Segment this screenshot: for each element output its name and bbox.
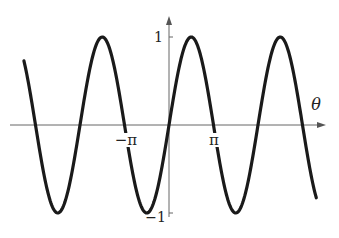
- sine-plot: −π π 1 −1 θ: [0, 0, 339, 238]
- x-tick-label-neg-pi: −π: [115, 131, 138, 149]
- x-axis-label-theta: θ: [311, 95, 321, 114]
- x-tick-label-pi: π: [209, 131, 219, 149]
- x-axis-arrow-icon: [317, 122, 326, 128]
- y-tick-label-neg1: −1: [145, 209, 166, 225]
- y-axis-arrow-icon: [166, 16, 172, 25]
- y-tick-label-1: 1: [154, 29, 163, 45]
